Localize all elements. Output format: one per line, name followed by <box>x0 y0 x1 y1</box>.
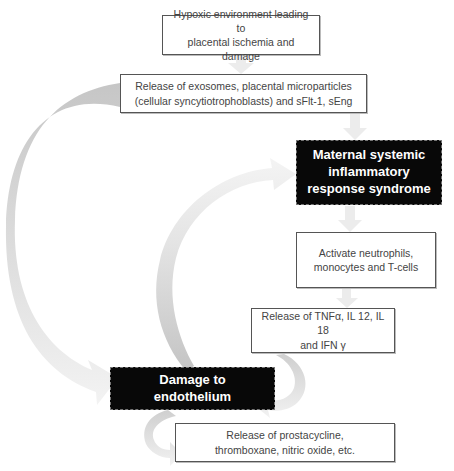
node-activate-immune-cells: Activate neutrophils, monocytes and T-ce… <box>296 232 436 288</box>
node-label: Activate neutrophils, monocytes and T-ce… <box>314 246 418 274</box>
node-release-exosomes: Release of exosomes, placental micropart… <box>120 74 367 113</box>
node-label: Release of prostacycline, thromboxane, n… <box>215 428 355 456</box>
node-maternal-sirs: Maternal systemic inflammatory response … <box>296 140 442 205</box>
node-label: Release of TNFα, IL 12, IL 18 and IFN γ <box>258 309 388 352</box>
node-label: Maternal systemic inflammatory response … <box>307 147 431 198</box>
node-label: Hypoxic environment leading to placental… <box>169 7 313 64</box>
node-hypoxic-environment: Hypoxic environment leading to placental… <box>162 15 320 55</box>
arrow-b2-b6 <box>6 83 120 405</box>
arrow-b2-b3 <box>343 114 367 140</box>
node-damage-endothelium: Damage to endothelium <box>110 367 275 410</box>
node-label: Damage to endothelium <box>154 372 231 405</box>
arrow-b4-b5 <box>336 289 358 308</box>
arrow-b3-b4 <box>338 206 362 232</box>
node-label: Release of exosomes, placental micropart… <box>135 79 353 107</box>
node-release-vasoactive: Release of prostacycline, thromboxane, n… <box>175 423 395 462</box>
node-release-cytokines: Release of TNFα, IL 12, IL 18 and IFN γ <box>251 308 395 353</box>
